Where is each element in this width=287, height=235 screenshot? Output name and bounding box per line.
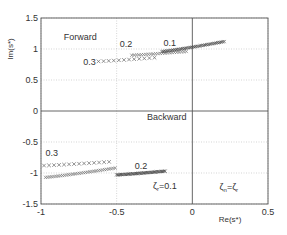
x-marker [82, 162, 86, 166]
x-tick-label: -1 [37, 207, 45, 217]
x-marker [72, 162, 76, 166]
y-tick-label: -1 [30, 168, 38, 178]
x-marker [117, 58, 121, 62]
annotation: 0.3 [46, 148, 59, 158]
annotation: Backward [147, 112, 187, 122]
annotation: Forward [64, 32, 97, 42]
x-marker [92, 161, 96, 165]
x-marker [102, 160, 106, 164]
x-tick-label: -0.5 [109, 207, 125, 217]
series-backward-0-3 [42, 160, 111, 167]
x-marker [132, 57, 136, 61]
series-backward-0-2 [44, 166, 117, 179]
x-marker [112, 59, 116, 63]
x-marker [47, 164, 51, 168]
x-marker [62, 163, 66, 167]
annotation: 0.2 [120, 39, 133, 49]
annotation: 0.2 [135, 161, 148, 171]
x-marker [87, 161, 91, 165]
x-marker [137, 57, 141, 61]
x-marker [107, 160, 111, 164]
x-marker [185, 50, 188, 53]
x-marker [122, 58, 126, 62]
x-marker [42, 164, 46, 168]
x-axis-label: Re(s*) [219, 215, 242, 224]
y-tick-label: 0.5 [25, 75, 38, 85]
x-marker [107, 59, 111, 63]
gridlines [41, 18, 268, 204]
annotation: 0.3 [83, 57, 96, 67]
x-marker [57, 163, 61, 167]
y-tick-label: 1.5 [25, 13, 38, 23]
annotation: ζr=0.1 [153, 181, 177, 192]
series-forward-0-3 [97, 56, 157, 63]
x-marker [153, 56, 157, 60]
y-tick-label: -0.5 [22, 137, 38, 147]
x-marker [97, 161, 101, 165]
x-marker [114, 166, 117, 169]
x-tick-label: 0 [190, 207, 195, 217]
x-tick-label: 0.5 [262, 207, 275, 217]
y-tick-label: 0 [33, 106, 38, 116]
y-tick-label: 1 [33, 44, 38, 54]
annotation: ζn=ζr [220, 182, 239, 193]
x-marker [77, 162, 81, 166]
annotation: 0.1 [164, 38, 177, 48]
x-marker [148, 56, 152, 60]
x-marker [97, 60, 101, 64]
x-marker [143, 57, 147, 61]
y-axis-label: Im(s*) [6, 38, 15, 60]
annotations: ForwardBackward0.30.20.10.30.2ζr=0.1ζn=ζ… [46, 32, 239, 194]
x-marker [52, 163, 56, 167]
x-marker [127, 58, 131, 62]
x-marker [67, 163, 71, 167]
y-tick-label: -1.5 [22, 199, 38, 209]
x-marker [102, 59, 106, 63]
root-locus-chart: -1-0.500.51.510.50-0.5-1-1.5 ForwardBack… [0, 0, 287, 235]
data-series [42, 40, 225, 179]
